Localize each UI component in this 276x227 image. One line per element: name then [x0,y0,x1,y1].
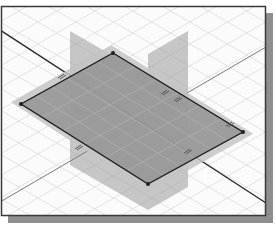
vertex-point-3[interactable] [19,102,23,106]
vertex-point-1[interactable] [241,130,245,134]
vertex-point-0[interactable] [111,51,115,55]
cad-viewport[interactable]: Isometric view of datum work planes [0,0,276,227]
isometric-scene[interactable] [0,0,276,227]
vertex-point-2[interactable] [146,182,150,186]
